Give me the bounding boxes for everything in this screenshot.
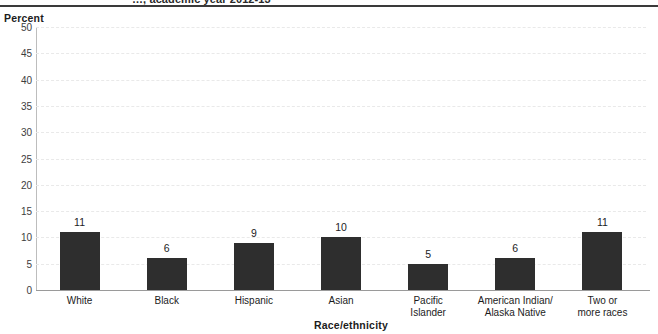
x-tick-label: Two or more races: [577, 295, 627, 319]
plot-area: 1169105611: [36, 27, 646, 290]
y-tick-label-5: 5: [2, 258, 32, 269]
y-tick-label-25: 25: [2, 153, 32, 164]
bar-value-label: 5: [425, 248, 431, 260]
bar[interactable]: [60, 232, 100, 290]
x-tick-label: Asian: [328, 295, 353, 307]
y-tick-label-20: 20: [2, 179, 32, 190]
gridline-45: [36, 53, 646, 54]
bar-value-label: 9: [251, 227, 257, 239]
bar[interactable]: [582, 232, 622, 290]
bar[interactable]: [234, 243, 274, 290]
gridline-15: [36, 211, 646, 212]
bar[interactable]: [408, 264, 448, 290]
gridline-30: [36, 132, 646, 133]
y-tick-label-10: 10: [2, 232, 32, 243]
bar[interactable]: [147, 258, 187, 290]
bar-value-label: 11: [597, 216, 608, 228]
gridline-35: [36, 106, 646, 107]
x-tick-label: Pacific Islander: [410, 295, 446, 319]
gridline-25: [36, 159, 646, 160]
y-tick-label-45: 45: [2, 48, 32, 59]
y-tick-label-50: 50: [2, 22, 32, 33]
x-axis-label-text: Race/ethnicity: [314, 319, 388, 331]
bar-value-label: 10: [335, 221, 347, 233]
bar-value-label: 6: [512, 242, 518, 254]
x-axis-line: [36, 290, 650, 291]
y-axis-ticks: 50454035302520151050: [0, 27, 32, 291]
y-tick-label-35: 35: [2, 100, 32, 111]
y-tick-label-15: 15: [2, 206, 32, 217]
x-tick-label: American Indian/ Alaska Native: [478, 295, 553, 319]
y-tick-label-40: 40: [2, 74, 32, 85]
bar-value-label: 11: [74, 216, 85, 228]
y-tick-label-0: 0: [2, 285, 32, 296]
y-tick-label-30: 30: [2, 127, 32, 138]
bar[interactable]: [321, 237, 361, 290]
gridline-40: [36, 80, 646, 81]
x-tick-label: Black: [154, 295, 178, 307]
x-tick-label: Hispanic: [235, 295, 273, 307]
x-tick-label: White: [67, 295, 93, 307]
header-divider: [0, 5, 658, 7]
gridline-20: [36, 185, 646, 186]
x-axis-label: Race/ethnicity: [0, 319, 658, 331]
bar-value-label: 6: [164, 242, 170, 254]
gridline-50: [36, 27, 646, 28]
bar[interactable]: [495, 258, 535, 290]
